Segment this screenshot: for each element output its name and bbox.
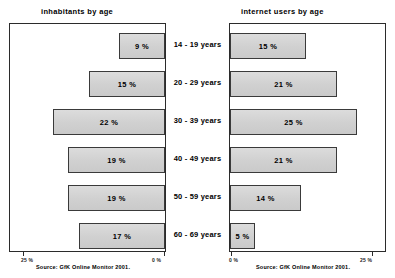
category-label-column: 14 - 19 years20 - 29 years30 - 39 years4… [166,23,229,252]
bar-right-50---59-years: 14 % [230,185,301,211]
bar-left-14---19-years: 9 % [119,33,165,59]
axis-tick-mark [372,252,373,256]
left-chart-source-note: Source: GfK Online Monitor 2001. [36,264,130,270]
bar-left-30---39-years: 22 % [53,109,165,135]
category-label-14---19-years: 14 - 19 years [166,40,229,49]
bar-value-label: 19 % [107,194,126,203]
axis-tick-label: 0 % [229,257,238,263]
bar-value-label: 5 % [235,232,249,241]
category-label-60---69-years: 60 - 69 years [166,230,229,239]
bar-value-label: 22 % [100,118,119,127]
bar-value-label: 17 % [113,232,132,241]
bar-value-label: 14 % [256,194,275,203]
right-chart-source-note: Source: GfK Online Monitor 2001. [256,264,350,270]
bar-value-label: 25 % [284,118,303,127]
bar-left-50---59-years: 19 % [68,185,165,211]
right-chart-plot-area: 15 %21 %25 %21 %14 %5 % [229,23,386,252]
bar-value-label: 19 % [107,156,126,165]
bar-value-label: 15 % [259,42,278,51]
bar-right-20---29-years: 21 % [230,71,337,97]
left-chart-plot-area: 9 %15 %22 %19 %19 %17 % [9,23,166,252]
cut-off-title-sliver [0,0,395,5]
bar-right-40---49-years: 21 % [230,147,337,173]
axis-tick-mark [231,252,232,256]
chart-page: inhabitants by age internet users by age… [0,0,395,278]
bar-right-14---19-years: 15 % [230,33,306,59]
bar-right-30---39-years: 25 % [230,109,357,135]
bar-value-label: 21 % [274,80,293,89]
category-label-30---39-years: 30 - 39 years [166,116,229,125]
bar-value-label: 9 % [135,42,149,51]
category-label-20---29-years: 20 - 29 years [166,78,229,87]
bar-right-60---69-years: 5 % [230,223,255,249]
category-label-40---49-years: 40 - 49 years [166,154,229,163]
bar-left-40---49-years: 19 % [68,147,165,173]
axis-tick-mark [164,252,165,256]
bar-left-60---69-years: 17 % [79,223,165,249]
right-chart-title: internet users by age [241,7,324,16]
bar-value-label: 15 % [118,80,137,89]
axis-tick-label: 0 % [152,257,161,263]
axis-tick-label: 25 % [21,257,33,263]
bar-value-label: 21 % [274,156,293,165]
category-label-50---59-years: 50 - 59 years [166,192,229,201]
left-chart-title: inhabitants by age [41,7,113,16]
axis-tick-mark [23,252,24,256]
bar-left-20---29-years: 15 % [89,71,165,97]
axis-tick-label: 25 % [360,257,372,263]
